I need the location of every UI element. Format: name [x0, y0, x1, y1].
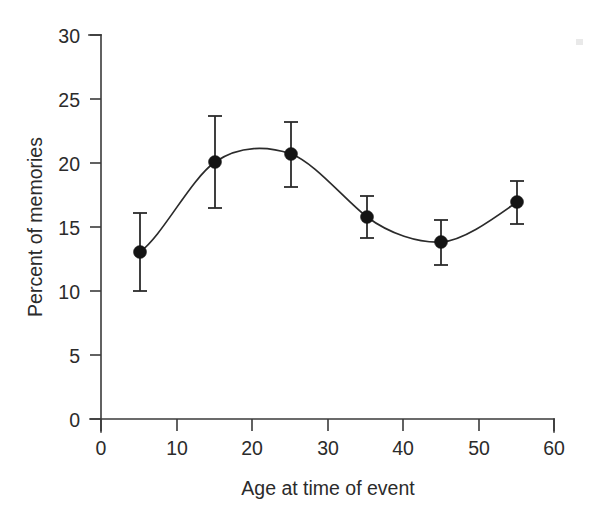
x-tick-label-0: 0: [96, 437, 107, 459]
data-markers-group: [134, 148, 524, 259]
y-tick-labels: 30 25 20 15 10 5 0: [58, 25, 80, 431]
x-tick-labels: 0 10 20 30 40 50 60: [96, 437, 565, 459]
x-tick-marks: [101, 419, 554, 431]
data-point-age-55: [511, 196, 524, 209]
data-point-age-25: [285, 148, 298, 161]
x-tick-label-40: 40: [392, 437, 414, 459]
error-bars-group: [133, 116, 524, 291]
x-tick-label-30: 30: [317, 437, 339, 459]
x-tick-label-50: 50: [468, 437, 490, 459]
chart-figure: 30 25 20 15 10 5 0 0 10 20 30 40 50 60 A…: [0, 0, 595, 518]
x-tick-label-20: 20: [241, 437, 263, 459]
y-tick-label-15: 15: [58, 217, 80, 239]
y-tick-label-0: 0: [69, 409, 80, 431]
y-tick-marks: [90, 35, 101, 419]
data-line-percent-of-memories: [140, 148, 517, 252]
x-tick-label-60: 60: [543, 437, 565, 459]
data-point-age-35: [361, 211, 374, 224]
data-point-age-45: [435, 236, 448, 249]
line-chart-canvas: 30 25 20 15 10 5 0 0 10 20 30 40 50 60 A…: [0, 0, 595, 518]
y-axis-title: Percent of memories: [24, 137, 46, 317]
y-tick-label-25: 25: [58, 89, 80, 111]
y-tick-label-20: 20: [58, 153, 80, 175]
x-tick-label-10: 10: [166, 437, 188, 459]
data-point-age-5: [134, 246, 147, 259]
y-tick-label-30: 30: [58, 25, 80, 47]
scan-artifact-speck: [576, 39, 583, 45]
y-tick-label-5: 5: [69, 345, 80, 367]
data-point-age-15: [209, 156, 222, 169]
x-axis-title: Age at time of event: [241, 477, 415, 499]
y-tick-label-10: 10: [58, 281, 80, 303]
